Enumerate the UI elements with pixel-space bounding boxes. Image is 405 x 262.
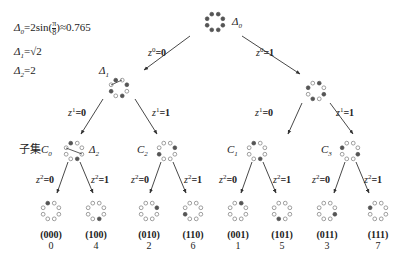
- hollow-point: [86, 212, 90, 216]
- leaf-index-0: 0: [38, 240, 64, 251]
- hollow-point: [125, 89, 129, 93]
- leaf-index-7: 7: [365, 240, 391, 251]
- filled-point: [114, 78, 118, 82]
- constellation-leaf-3: [317, 201, 337, 221]
- hollow-point: [328, 201, 332, 205]
- hollow-point: [288, 206, 292, 210]
- hollow-point: [139, 212, 143, 216]
- constellation-subset-c3: [340, 141, 360, 161]
- subset-c0-label: 子集C0: [19, 143, 52, 160]
- filled-point: [125, 83, 129, 87]
- constellation-leaf-2: [139, 201, 159, 221]
- filled-point: [277, 217, 281, 221]
- hollow-point: [102, 212, 106, 216]
- filled-point: [205, 17, 209, 21]
- hollow-point: [228, 212, 232, 216]
- hollow-point: [144, 201, 148, 205]
- leaf-code-1: (100): [83, 229, 109, 240]
- edge-label-l2-4: z2=0: [219, 172, 237, 185]
- filled-point: [252, 141, 256, 145]
- hollow-point: [277, 201, 281, 205]
- filled-point: [221, 17, 225, 21]
- hollow-point: [188, 217, 192, 221]
- hollow-point: [162, 141, 166, 145]
- edge-label-l1-2: z1=0: [255, 105, 273, 118]
- hollow-point: [356, 146, 360, 150]
- filled-point: [239, 201, 243, 205]
- edge-label-l2-7: z2=1: [364, 172, 382, 185]
- hollow-point: [322, 201, 326, 205]
- filled-point: [75, 157, 79, 161]
- hollow-point: [351, 157, 355, 161]
- hollow-point: [150, 217, 154, 221]
- hollow-point: [183, 206, 187, 210]
- hollow-point: [80, 146, 84, 150]
- hollow-point: [157, 146, 161, 150]
- hollow-point: [263, 146, 267, 150]
- edge-label-l2-2: z2=0: [131, 172, 149, 185]
- leaf-code-4: (001): [225, 229, 251, 240]
- hollow-point: [263, 152, 267, 156]
- hollow-point: [144, 217, 148, 221]
- hollow-point: [91, 217, 95, 221]
- hollow-point: [322, 217, 326, 221]
- edge-label-l2-3: z2=1: [184, 172, 202, 185]
- constellation-leaf-0: [41, 201, 60, 221]
- hollow-point: [91, 201, 95, 205]
- hollow-point: [311, 81, 315, 85]
- filled-point: [210, 28, 214, 32]
- hollow-point: [252, 157, 256, 161]
- hollow-point: [150, 201, 154, 205]
- hollow-point: [322, 86, 326, 90]
- filled-point: [333, 212, 337, 216]
- hollow-point: [384, 206, 388, 210]
- hollow-point: [41, 212, 45, 216]
- hollow-point: [244, 212, 248, 216]
- leaf-code-6: (011): [314, 229, 340, 240]
- hollow-point: [188, 201, 192, 205]
- hollow-point: [247, 152, 251, 156]
- hollow-point: [69, 157, 73, 161]
- edge-label-l1-1: z1=1: [152, 105, 170, 118]
- hollow-point: [199, 212, 203, 216]
- edge-label-l0-1: z0=1: [256, 45, 274, 58]
- root-label: Δ0: [232, 15, 242, 32]
- filled-point: [221, 23, 225, 27]
- hollow-point: [173, 152, 177, 156]
- constellation-leaf-5: [272, 201, 292, 221]
- hollow-point: [328, 217, 332, 221]
- hollow-point: [345, 157, 349, 161]
- hollow-point: [162, 157, 166, 161]
- hollow-point: [258, 141, 262, 145]
- hollow-point: [57, 212, 61, 216]
- hollow-point: [102, 206, 106, 210]
- hollow-point: [384, 212, 388, 216]
- hollow-point: [52, 201, 56, 205]
- hollow-point: [340, 152, 344, 156]
- filled-point: [306, 86, 310, 90]
- leaf-code-7: (111): [365, 229, 391, 240]
- edge-label-l2-6: z2=0: [312, 172, 330, 185]
- hollow-point: [373, 217, 377, 221]
- hollow-point: [317, 212, 321, 216]
- subset-c3-label: C3: [321, 143, 332, 160]
- filled-point: [210, 12, 214, 16]
- hollow-point: [139, 206, 143, 210]
- constellation-subset-c2: [157, 141, 177, 161]
- filled-point: [155, 206, 159, 210]
- hollow-point: [52, 217, 56, 221]
- constellation-level1-right: [306, 81, 326, 101]
- leaf-index-4: 1: [225, 240, 251, 251]
- hollow-point: [317, 206, 321, 210]
- hollow-point: [64, 152, 68, 156]
- subset-c1-label: C1: [227, 143, 238, 160]
- hollow-point: [168, 141, 172, 145]
- hollow-point: [168, 157, 172, 161]
- hollow-point: [194, 217, 198, 221]
- constellation-leaf-1: [228, 201, 248, 221]
- hollow-point: [379, 217, 383, 221]
- constellation-leaf-7: [368, 201, 388, 221]
- edge-label-l0-0: z0=0: [148, 45, 166, 58]
- leaf-index-3: 6: [180, 240, 206, 251]
- hollow-point: [247, 146, 251, 150]
